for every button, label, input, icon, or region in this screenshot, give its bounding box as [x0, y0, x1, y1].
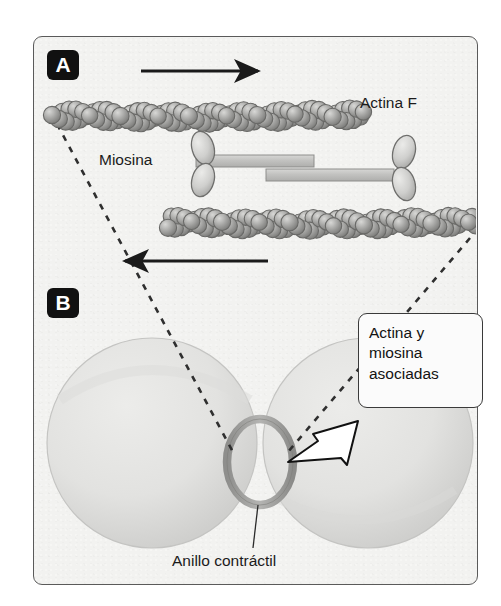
label-actina-f: Actina F — [360, 94, 417, 112]
actin-subunit — [287, 106, 303, 122]
anillo-leader-line — [253, 505, 258, 548]
actin-filament-top — [43, 100, 371, 132]
myosin-rod-lower — [266, 169, 394, 181]
label-anillo-contractil: Anillo contráctil — [172, 552, 276, 570]
label-miosina: Miosina — [99, 151, 152, 169]
actin-subunit — [159, 219, 176, 236]
panel-badge-a: A — [47, 50, 79, 80]
myosin-head-right-upper — [389, 133, 420, 172]
panel-badge-b: B — [47, 288, 79, 318]
actin-subunit — [183, 213, 199, 229]
actin-subunit — [251, 214, 267, 230]
actin-subunit — [43, 106, 60, 123]
actin-subunit — [213, 213, 230, 230]
actin-subunit — [112, 107, 129, 124]
actin-subunit — [81, 107, 97, 123]
actin-subunit — [393, 216, 409, 232]
actin-filament-bottom — [159, 207, 483, 239]
actin-subunit — [324, 108, 341, 125]
figure-root: A B Actina F Miosina Anillo contráctil A… — [0, 0, 501, 606]
actin-subunit — [150, 108, 166, 124]
actin-subunit — [180, 108, 197, 125]
myosin-thick-filament — [196, 155, 394, 181]
actin-subunit — [218, 108, 234, 124]
callout-line-2: miosina — [369, 343, 472, 363]
callout-line-3: asociadas — [369, 364, 472, 384]
actin-subunit — [249, 106, 266, 123]
callout-line-1: Actina y — [369, 323, 472, 343]
callout-actina-miosina: Actina y miosina asociadas — [358, 313, 483, 408]
actin-subunit — [460, 214, 476, 230]
actin-subunit — [423, 215, 440, 232]
actin-subunit — [355, 217, 372, 234]
actin-subunit — [281, 214, 298, 231]
actin-subunit — [325, 218, 341, 234]
